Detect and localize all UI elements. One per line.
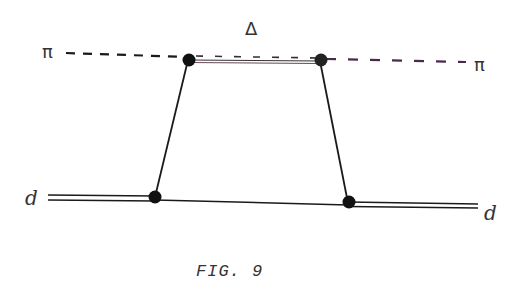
delta-label: Δ [245,18,257,39]
pion-line-right [326,59,466,62]
delta-line-lower [188,63,320,64]
deuteron-in-upper [48,195,155,196]
vertex-bottom-right [343,196,356,209]
deuteron-in-lower [48,200,155,201]
pion-line-left [66,53,188,57]
delta-line-upper [188,60,320,61]
vertex-top-left [183,54,196,67]
left-propagator [155,60,188,197]
pion-line-mid [196,56,318,58]
right-propagator [320,61,348,203]
deuteron-out-upper [348,202,478,204]
pion-in-label: π [42,41,53,62]
deuteron-in-label: d [25,186,38,210]
deuteron-out-lower [348,207,478,209]
vertex-bottom-left [149,191,162,204]
vertex-top-right [315,54,328,67]
feynman-diagram [0,0,524,291]
figure-caption: FIG. 9 [196,262,263,281]
nucleon-line [155,200,348,205]
deuteron-out-label: d [484,201,497,225]
pion-out-label: π [474,54,485,75]
